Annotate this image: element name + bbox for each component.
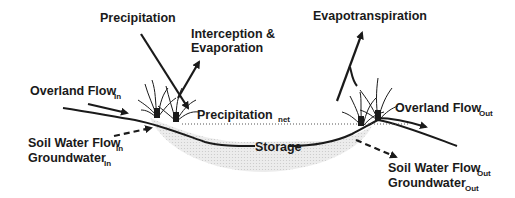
evapotranspiration-hook — [350, 67, 357, 86]
precipitation-arrow — [141, 34, 188, 108]
groundwater-in-sub: In — [104, 159, 111, 168]
soil-water-flow-out-arrow — [356, 140, 396, 157]
storage-label: Storage — [255, 140, 302, 154]
precipitation-net-sub: net — [278, 115, 290, 124]
overland-flow-in-sub: In — [114, 92, 121, 101]
interception-label-line1: Interception & — [191, 27, 275, 41]
vegetation-left-icon — [138, 80, 199, 122]
evapotranspiration-arrow — [337, 33, 362, 101]
interception-arrow — [178, 62, 199, 98]
overland-flow-out-sub: Out — [479, 109, 493, 118]
interception-label-line2: Evaporation — [191, 41, 263, 55]
soil-water-flow-out-label: Soil Water Flow — [388, 161, 481, 175]
soil-water-flow-in-sub: In — [116, 144, 123, 153]
water-balance-diagram: Precipitation Interception & Evaporation… — [0, 0, 515, 198]
overland-flow-in-label: Overland Flow — [30, 84, 116, 98]
overland-flow-out-label: Overland Flow — [395, 101, 481, 115]
groundwater-in-label: Groundwater — [28, 151, 106, 165]
groundwater-out-label: Groundwater — [388, 176, 466, 190]
evapotranspiration-label: Evapotranspiration — [313, 9, 427, 23]
precipitation-label: Precipitation — [100, 11, 176, 25]
soil-water-flow-in-label: Soil Water Flow — [28, 136, 121, 150]
soil-water-flow-in-arrow — [114, 128, 151, 136]
overland-flow-in-arrow — [88, 104, 127, 113]
soil-water-flow-out-sub: Out — [477, 169, 491, 178]
precipitation-net-label: Precipitation — [197, 108, 273, 122]
groundwater-out-sub: Out — [465, 184, 479, 193]
